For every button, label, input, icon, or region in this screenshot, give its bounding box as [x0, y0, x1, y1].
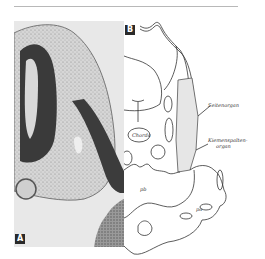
panel-a-badge: A	[15, 234, 25, 244]
label-pb: pb	[140, 186, 146, 192]
label-pa: pa	[196, 206, 202, 212]
label-chorda: Chorda	[132, 132, 151, 138]
panel-b-label: B	[127, 25, 133, 34]
panel-a-label: A	[17, 234, 23, 243]
panel-b-drawing: Seitenorgan Kiemenspalten- organ Chorda …	[124, 20, 265, 259]
label-seitenorgan: Seitenorgan	[208, 102, 239, 108]
panel-b-badge: B	[125, 25, 135, 35]
panel-a-photo	[14, 21, 124, 247]
top-rule	[14, 6, 238, 7]
histology-image	[14, 21, 124, 247]
label-kiemenspaltenorgan-2: organ	[216, 143, 231, 149]
